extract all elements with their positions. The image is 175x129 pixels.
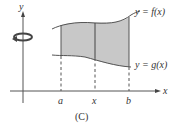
lower-curve-label: y = g(x) bbox=[134, 59, 168, 71]
y-axis-label: y bbox=[18, 1, 24, 12]
figure-caption: (C) bbox=[75, 111, 88, 123]
tick-label-b: b bbox=[126, 95, 131, 106]
upper-curve-label: y = f(x) bbox=[134, 6, 166, 18]
x-axis-arrow-icon bbox=[155, 89, 161, 93]
solid-of-revolution-diagram: y x y = f(x) y = g(x) a x b (C) bbox=[0, 0, 175, 129]
x-axis-label: x bbox=[162, 85, 168, 96]
rotation-arrow-icon bbox=[12, 34, 32, 43]
tick-label-a: a bbox=[58, 95, 63, 106]
tick-label-x: x bbox=[91, 95, 97, 106]
